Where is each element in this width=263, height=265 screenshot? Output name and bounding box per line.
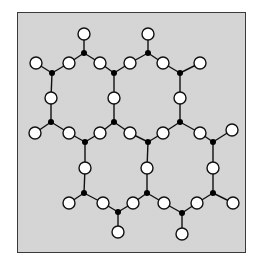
open-circle-node [63, 127, 75, 139]
junction-node [111, 70, 117, 76]
open-circle-node [79, 162, 91, 174]
open-circle-node [176, 228, 188, 240]
junction-node [179, 210, 185, 216]
open-circle-node [226, 124, 238, 136]
open-circle-node [45, 92, 57, 104]
open-circle-node [227, 197, 239, 209]
open-circle-node [174, 92, 186, 104]
junction-node [210, 190, 216, 196]
open-circle-node [142, 28, 154, 40]
open-circle-node [194, 57, 206, 69]
junction-node [177, 70, 183, 76]
open-circle-node [94, 127, 106, 139]
open-circle-node [97, 197, 109, 209]
open-circle-node [94, 57, 106, 69]
junction-node [145, 50, 151, 56]
hexagonal-network-diagram [0, 0, 263, 265]
junction-node [81, 190, 87, 196]
junction-node [177, 119, 183, 125]
junction-node [81, 50, 87, 56]
open-circle-node [207, 162, 219, 174]
open-circle-node [157, 127, 169, 139]
open-circle-node [108, 92, 120, 104]
open-circle-node [63, 197, 75, 209]
open-circle-node [29, 127, 41, 139]
open-circle-node [157, 57, 169, 69]
open-circle-node [158, 197, 170, 209]
junction-node [210, 139, 216, 145]
junction-node [115, 209, 121, 215]
junction-node [145, 139, 151, 145]
junction-node [111, 119, 117, 125]
open-circle-node [124, 57, 136, 69]
open-circle-node [191, 197, 203, 209]
open-circle-node [63, 57, 75, 69]
open-circle-node [194, 127, 206, 139]
junction-node [49, 70, 55, 76]
junction-node [48, 119, 54, 125]
open-circle-node [124, 127, 136, 139]
junction-node [82, 139, 88, 145]
open-circle-node [78, 28, 90, 40]
junction-node [144, 190, 150, 196]
open-circle-node [112, 226, 124, 238]
open-circle-node [141, 162, 153, 174]
open-nodes-layer [29, 28, 239, 240]
open-circle-node [30, 57, 42, 69]
open-circle-node [127, 197, 139, 209]
